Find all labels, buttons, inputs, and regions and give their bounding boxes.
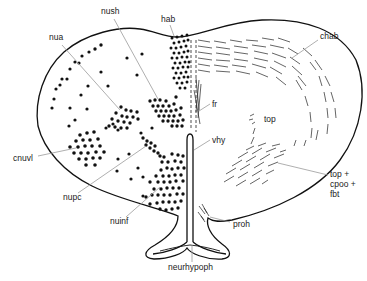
chab-fibers [198,38,336,146]
label-fr: fr [212,99,217,109]
nush-cells [148,95,184,127]
labels: nush hab nua chab fr top vhy cnuvl top +… [13,6,356,272]
nupc-nuinf-cells [141,136,185,211]
habenula-cells [170,34,191,90]
label-nush: nush [101,6,120,16]
label-vhy: vhy [212,135,226,145]
nua-cells [107,105,139,129]
section-outline [37,20,362,259]
hypothalamic-ventricle [187,134,193,242]
label-chab: chab [320,31,339,41]
label-hab: hab [161,14,175,24]
label-top-cpoo-fbt-1: top + [330,169,349,179]
label-nupc: nupc [63,192,82,202]
label-nua: nua [49,32,63,42]
brain-section-figure: nush hab nua chab fr top vhy cnuvl top +… [0,0,367,281]
fr-fibers [194,78,201,124]
label-nuinf: nuinf [110,216,129,226]
top-fibers [249,114,255,144]
neurohypophysis-lumen [160,245,220,251]
label-top-cpoo-fbt-3: fbt [330,189,340,199]
neurohypophysis-inner [153,242,226,254]
label-cnuvl: cnuvl [13,153,33,163]
midline-dashed [191,40,196,132]
label-top-cpoo-fbt-2: cpoo + [330,179,356,189]
top-cpoo-fbt-fibers [224,143,286,186]
label-top: top [264,114,276,124]
label-proh: proh [233,219,250,229]
label-neurhypoph: neurhypoph [168,262,213,272]
